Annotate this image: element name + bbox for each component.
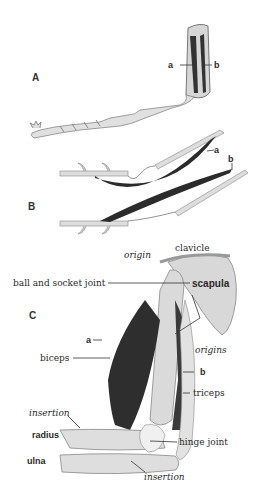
label-c-muscle-b: b: [200, 367, 206, 377]
label-scapula: scapula: [192, 279, 229, 289]
panel-label-b: B: [28, 201, 35, 212]
label-triceps: triceps: [193, 388, 225, 398]
label-ball-and-socket-joint: ball and socket joint: [13, 278, 105, 288]
label-hinge-joint: hinge joint: [179, 437, 228, 447]
label-radius: radius: [32, 430, 59, 440]
label-ulna: ulna: [27, 456, 46, 466]
label-clavicle: clavicle: [175, 243, 210, 253]
label-origins: origins: [195, 345, 227, 355]
label-origin: origin: [124, 250, 151, 260]
label-b-muscle-a: a: [214, 145, 219, 155]
label-c-muscle-a: a: [86, 335, 91, 345]
panel-a-illustration: [30, 24, 210, 138]
label-a-muscle-a: a: [168, 60, 173, 70]
label-insertion-triceps: insertion: [144, 472, 185, 482]
panel-b-illustration: [60, 130, 248, 234]
panel-label-c: C: [29, 310, 36, 321]
label-biceps: biceps: [40, 353, 69, 363]
label-insertion-biceps: insertion: [29, 408, 70, 418]
panel-label-a: A: [32, 72, 39, 83]
label-b-muscle-b: b: [228, 154, 234, 164]
label-a-muscle-b: b: [214, 60, 220, 70]
